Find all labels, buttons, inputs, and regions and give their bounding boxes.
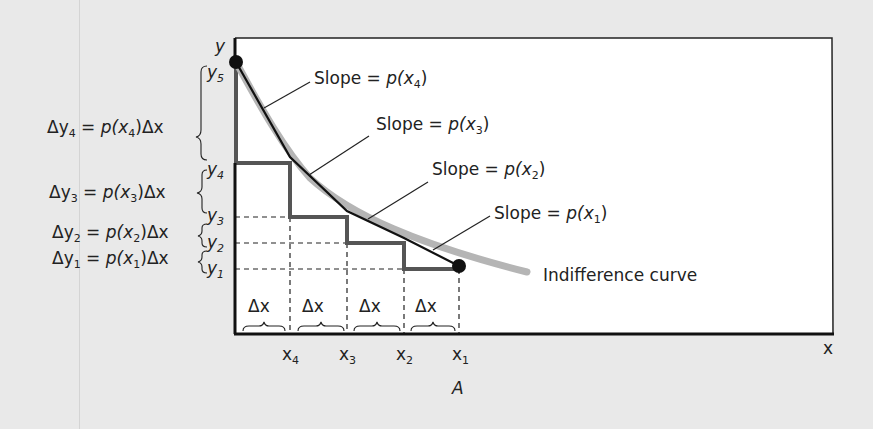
endpoint-top: [229, 55, 243, 69]
indifference-curve-diagram: Slope = p(x4) Slope = p(x3) Slope = p(x2…: [0, 0, 873, 429]
svg-text:Δy4 = p(x4)Δx: Δy4 = p(x4)Δx: [47, 117, 164, 140]
svg-text:y1: y1: [206, 258, 224, 281]
slope-label-3: Slope = p(x3): [376, 114, 489, 137]
svg-text:Δy1 = p(x1)Δx: Δy1 = p(x1)Δx: [52, 248, 169, 271]
indifference-curve-label: Indifference curve: [543, 265, 697, 285]
x-tick-labels: x4 x3 x2 x1: [282, 344, 469, 367]
slope-label-2: Slope = p(x2): [432, 159, 545, 182]
svg-text:Δx: Δx: [248, 296, 270, 316]
y-axis-label: y: [214, 36, 226, 56]
svg-text:Δx: Δx: [302, 296, 324, 316]
svg-text:x1: x1: [452, 344, 469, 367]
svg-text:y5: y5: [206, 62, 224, 85]
svg-text:x3: x3: [339, 344, 356, 367]
svg-text:y3: y3: [206, 205, 224, 228]
slope-label-1: Slope = p(x1): [494, 203, 607, 226]
svg-text:y2: y2: [206, 232, 224, 255]
svg-text:x2: x2: [396, 344, 413, 367]
svg-text:Δx: Δx: [415, 296, 437, 316]
delta-y-braces: [196, 66, 207, 273]
delta-y-labels: Δy4 = p(x4)Δx Δy3 = p(x3)Δx Δy2 = p(x2)Δ…: [47, 117, 169, 271]
y-tick-labels: y5 y4 y3 y2 y1: [206, 62, 224, 281]
svg-text:Δy3 = p(x3)Δx: Δy3 = p(x3)Δx: [49, 182, 166, 205]
svg-text:Δy2 = p(x2)Δx: Δy2 = p(x2)Δx: [52, 222, 169, 245]
endpoint-bottom: [452, 259, 466, 273]
slope-label-4: Slope = p(x4): [314, 68, 427, 91]
svg-text:y4: y4: [206, 159, 224, 182]
x-axis-label: x: [823, 338, 833, 358]
figure-label: A: [451, 378, 464, 398]
svg-text:x4: x4: [282, 344, 299, 367]
svg-text:Δx: Δx: [359, 296, 381, 316]
